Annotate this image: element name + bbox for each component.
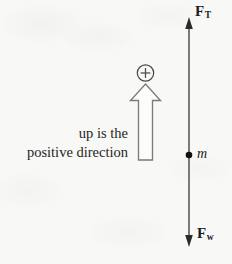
axis-up-arrowhead-icon xyxy=(185,17,193,29)
free-body-diagram: FT Fw m up is the positive direction xyxy=(0,0,232,264)
weight-force-symbol: F xyxy=(197,225,206,241)
mass-label: m xyxy=(197,147,207,161)
caption-line-1: up is the xyxy=(4,124,128,143)
weight-force-subscript: w xyxy=(207,232,214,242)
axis-down-arrowhead-icon xyxy=(185,235,193,247)
point-mass-dot-icon xyxy=(186,152,193,159)
tension-force-symbol: F xyxy=(195,3,204,19)
force-axis xyxy=(185,17,193,247)
circled-plus-icon xyxy=(137,65,153,81)
tension-force-label: FT xyxy=(195,4,211,21)
weight-force-label: Fw xyxy=(197,226,214,243)
sign-convention-caption: up is the positive direction xyxy=(4,124,128,161)
positive-direction-block-arrow-icon xyxy=(131,84,161,160)
tension-force-subscript: T xyxy=(205,10,212,20)
caption-line-2: positive direction xyxy=(4,143,128,162)
